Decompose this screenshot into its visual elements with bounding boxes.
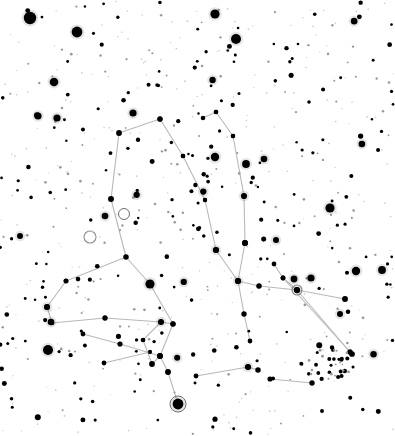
star-marker xyxy=(199,270,200,271)
star-marker xyxy=(359,141,366,148)
star-marker xyxy=(138,209,140,211)
star-marker xyxy=(234,345,239,350)
star-marker xyxy=(327,378,329,380)
star-chart xyxy=(0,0,395,436)
star-marker xyxy=(24,340,27,343)
star-marker xyxy=(226,136,228,138)
star-marker xyxy=(245,126,247,128)
star-marker xyxy=(45,147,47,149)
star-marker xyxy=(104,70,106,72)
star-marker xyxy=(176,119,180,123)
star-marker xyxy=(320,409,324,413)
star-marker xyxy=(343,223,346,226)
star-marker xyxy=(384,202,386,204)
star-marker xyxy=(303,415,305,417)
constellation-vertex-star xyxy=(203,198,207,202)
star-marker xyxy=(1,326,3,328)
star-marker xyxy=(211,174,212,175)
star-marker xyxy=(136,189,139,192)
star-marker xyxy=(233,96,235,98)
star-marker xyxy=(111,130,113,132)
star-marker xyxy=(167,211,169,213)
star-marker xyxy=(11,337,14,340)
star-marker xyxy=(288,60,291,63)
star-marker xyxy=(301,155,303,157)
star-marker xyxy=(232,27,233,28)
star-marker xyxy=(151,52,153,54)
star-marker xyxy=(122,259,123,260)
star-marker xyxy=(136,175,138,177)
star-marker xyxy=(153,390,155,392)
star-marker xyxy=(392,428,394,430)
bright-star xyxy=(53,114,60,121)
cluster-member-star xyxy=(347,370,350,373)
star-marker xyxy=(312,25,314,27)
star-marker xyxy=(392,103,395,106)
star-marker xyxy=(385,282,388,285)
star-marker xyxy=(166,75,168,77)
star-marker xyxy=(201,21,203,23)
star-marker xyxy=(171,21,173,23)
star-marker xyxy=(276,219,279,222)
star-marker xyxy=(263,200,266,203)
star-marker xyxy=(285,331,288,334)
star-marker xyxy=(303,198,306,201)
star-marker xyxy=(227,44,232,49)
star-marker xyxy=(257,186,259,188)
star-marker xyxy=(81,72,83,74)
star-marker xyxy=(197,201,200,204)
star-marker xyxy=(161,86,163,88)
star-marker xyxy=(223,414,224,415)
star-marker xyxy=(65,207,67,209)
star-marker xyxy=(274,206,277,209)
star-marker xyxy=(326,99,328,101)
sky-map-canvas xyxy=(0,0,395,436)
star-marker xyxy=(180,172,182,174)
star-marker xyxy=(393,73,394,74)
star-marker xyxy=(46,386,47,387)
star-marker xyxy=(200,188,206,194)
star-marker xyxy=(237,92,240,95)
star-marker xyxy=(62,409,64,411)
star-marker xyxy=(16,70,17,71)
star-marker xyxy=(182,212,184,214)
star-marker xyxy=(201,94,203,96)
constellation-vertex-star xyxy=(231,134,235,138)
bright-star xyxy=(211,153,219,161)
star-marker xyxy=(211,338,213,340)
star-marker xyxy=(159,241,162,244)
star-marker xyxy=(284,91,286,93)
star-marker xyxy=(1,219,2,220)
star-marker xyxy=(291,271,292,272)
constellation-vertex-star xyxy=(181,154,186,159)
bright-star xyxy=(378,266,386,274)
star-marker xyxy=(38,82,40,84)
star-marker xyxy=(9,304,10,305)
star-marker xyxy=(370,351,376,357)
star-marker xyxy=(364,334,365,335)
star-marker xyxy=(147,358,148,359)
star-marker xyxy=(371,118,373,120)
star-marker xyxy=(94,386,95,387)
star-marker xyxy=(311,151,314,154)
star-marker xyxy=(181,279,187,285)
star-marker xyxy=(187,167,189,169)
star-marker xyxy=(69,189,70,190)
bright-star xyxy=(72,27,83,38)
star-marker xyxy=(274,11,276,13)
star-marker xyxy=(308,359,311,362)
cluster-member-star xyxy=(342,369,345,372)
star-marker xyxy=(64,415,66,417)
star-marker xyxy=(328,143,330,145)
star-marker xyxy=(206,180,210,184)
star-marker xyxy=(44,296,47,299)
star-marker xyxy=(307,44,309,46)
star-marker xyxy=(83,311,84,312)
star-marker xyxy=(198,135,200,137)
star-marker xyxy=(75,5,77,7)
bright-star xyxy=(17,233,23,239)
star-marker xyxy=(316,351,319,354)
star-marker xyxy=(220,99,223,102)
star-marker xyxy=(99,278,101,280)
star-marker xyxy=(66,60,69,63)
